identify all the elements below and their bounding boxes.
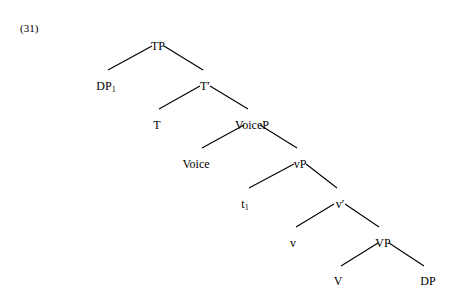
tree-node-DP1: DP1 (96, 80, 115, 92)
tree-node-label-text: TP (151, 39, 165, 53)
tree-branch-TP-DP1 (108, 46, 152, 70)
tree-node-VoiceP: VoiceP (235, 119, 269, 131)
example-number-label: (31) (20, 22, 38, 34)
tree-branch-Tbar-VoiceP (210, 86, 248, 109)
tree-node-label-text: DP (96, 79, 111, 93)
tree-node-label-text: DP (420, 274, 435, 288)
tree-branch-TP-Tbar (164, 46, 203, 70)
tree-branch-vbar-v (296, 204, 334, 227)
tree-node-Voice: Voice (182, 158, 209, 170)
tree-node-label-text: VoiceP (235, 118, 269, 132)
tree-node-label-text: v (290, 236, 296, 250)
tree-node-label-text: Voice (182, 157, 209, 171)
tree-node-Tbar: T′ (200, 80, 210, 92)
tree-node-T: T (153, 119, 160, 131)
tree-node-label-text: VP (375, 236, 390, 250)
tree-node-subscript: 1 (245, 203, 249, 212)
tree-node-vbar: v′ (336, 198, 345, 210)
tree-node-TP: TP (151, 40, 165, 52)
tree-node-label-text: v′ (336, 197, 345, 211)
tree-node-label-text: V (334, 274, 343, 288)
tree-node-DP: DP (420, 275, 435, 287)
tree-branch-vP-t1 (249, 164, 294, 188)
syntax-tree-figure: (31) TPDP1T′TVoicePVoicevPt1v′vVPVDP (0, 0, 460, 290)
tree-node-t1: t1 (241, 198, 248, 210)
tree-node-vP: vP (294, 158, 307, 170)
tree-node-v: v (290, 237, 296, 249)
tree-node-label-text: vP (294, 157, 307, 171)
tree-node-label-text: T (153, 118, 160, 132)
tree-node-V: V (334, 275, 343, 287)
tree-node-VP: VP (375, 237, 390, 249)
tree-node-label-text: T′ (200, 79, 210, 93)
tree-branch-VP-V (341, 243, 378, 266)
tree-node-subscript: 1 (112, 85, 116, 94)
tree-branch-vbar-VP (345, 204, 379, 227)
tree-branch-Tbar-T (159, 86, 200, 109)
tree-branch-VP-DP (389, 243, 424, 266)
tree-branches (0, 0, 460, 290)
tree-branch-vP-vbar (306, 164, 337, 188)
